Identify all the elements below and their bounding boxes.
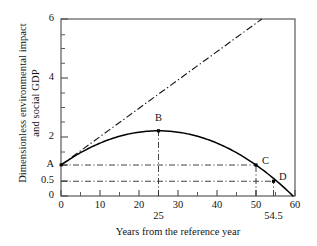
y-tick-label-6: 6 bbox=[26, 12, 54, 23]
point-label-D: D bbox=[279, 171, 287, 182]
y-tick-label-4: 4 bbox=[26, 71, 54, 82]
x-axis-major-ticks bbox=[61, 190, 295, 196]
point-label-C: C bbox=[262, 155, 269, 166]
y-tick-label-2: 2 bbox=[26, 130, 54, 141]
point-label-B: B bbox=[155, 112, 162, 123]
y-axis-minor-ticks bbox=[61, 35, 65, 152]
x-tick-label-50: 50 bbox=[246, 199, 266, 210]
x-tick-label-40: 40 bbox=[207, 199, 227, 210]
x-tick-label-0: 0 bbox=[51, 199, 71, 210]
chart-figure: Dimensionless environmental impact and s… bbox=[0, 0, 317, 246]
marker-C bbox=[254, 163, 257, 166]
environmental-impact-curve bbox=[61, 125, 293, 196]
x-tick-label-60: 60 bbox=[285, 199, 305, 210]
x-annotated-label-54point5: 54.5 bbox=[259, 210, 288, 221]
x-tick-label-10: 10 bbox=[90, 199, 110, 210]
x-annotated-label-25: 25 bbox=[148, 210, 169, 221]
x-tick-label-30: 30 bbox=[168, 199, 188, 210]
marker-A bbox=[60, 163, 63, 166]
x-tick-label-20: 20 bbox=[129, 199, 149, 210]
social-gdp-line bbox=[61, 19, 262, 165]
plot-frame bbox=[61, 19, 295, 196]
marker-B bbox=[157, 129, 160, 132]
y-tick-label-0point5: 0.5 bbox=[22, 174, 54, 185]
x-axis-label: Years from the reference year bbox=[61, 226, 295, 237]
guide-lines bbox=[61, 131, 274, 196]
curve-polyline bbox=[61, 131, 293, 196]
marker-D bbox=[272, 180, 275, 183]
y-tick-label-A: A bbox=[26, 158, 54, 169]
y-tick-label-0: 0 bbox=[26, 189, 54, 200]
